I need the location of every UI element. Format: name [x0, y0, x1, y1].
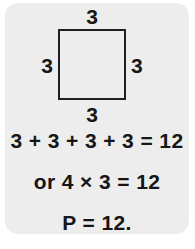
equation-multiplication: or 4 × 3 = 12 — [5, 171, 189, 192]
square-shape-outline — [58, 29, 126, 100]
equation-perimeter-result: P = 12. — [5, 212, 189, 233]
canvas: 3 3 3 3 3 + 3 + 3 + 3 = 12 or 4 × 3 = 12… — [0, 0, 195, 249]
equation-repeated-addition: 3 + 3 + 3 + 3 = 12 — [5, 130, 189, 151]
square-figure: 3 3 3 3 — [5, 3, 189, 127]
square-side-label-right: 3 — [131, 55, 157, 76]
worked-example-card: 3 3 3 3 3 + 3 + 3 + 3 = 12 or 4 × 3 = 12… — [5, 3, 189, 234]
square-side-label-left: 3 — [27, 55, 53, 76]
square-side-label-bottom: 3 — [58, 104, 126, 125]
square-side-label-top: 3 — [58, 6, 126, 27]
equation-block: 3 + 3 + 3 + 3 = 12 or 4 × 3 = 12 P = 12. — [5, 124, 189, 233]
